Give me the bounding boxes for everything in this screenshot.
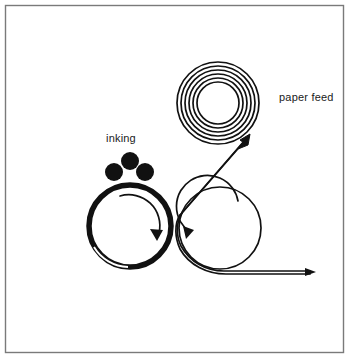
inking-roller-left (105, 163, 123, 181)
inking-roller-right (136, 163, 154, 181)
inking-label: inking (106, 132, 136, 144)
paper-feed-label: paper feed (279, 91, 334, 103)
figure-background (0, 0, 349, 359)
inking-roller-top (121, 152, 139, 170)
diagram-canvas: inking paper feed (0, 0, 349, 359)
printing-press-figure: inking paper feed (0, 0, 349, 359)
